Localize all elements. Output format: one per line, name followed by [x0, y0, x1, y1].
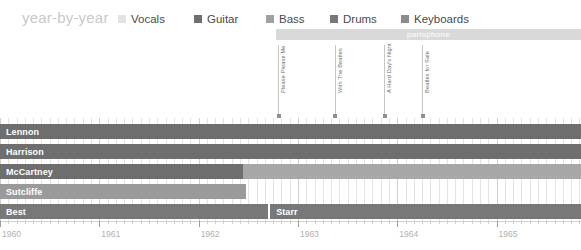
- album-release-marker[interactable]: Beatles for Sale: [422, 45, 423, 117]
- album-release-marker[interactable]: A Hard Day's Night: [384, 45, 385, 117]
- axis-tick-minor: [108, 221, 109, 224]
- axis-tick-minor: [66, 221, 67, 224]
- axis-tick-minor: [555, 221, 556, 224]
- axis-tick-minor: [331, 221, 332, 224]
- chart-header: year-by-year VocalsGuitarBassDrumsKeyboa…: [0, 8, 581, 30]
- axis-tick-minor: [91, 221, 92, 224]
- axis-tick-major: [397, 221, 398, 227]
- timeline-bar-harrison[interactable]: [0, 144, 581, 159]
- timeline-row-label: Harrison: [6, 144, 44, 159]
- legend-swatch-icon: [330, 15, 338, 23]
- legend-item-label: Keyboards: [414, 13, 469, 25]
- axis-tick-minor: [430, 221, 431, 224]
- timeline-row: Sutcliffe: [0, 184, 581, 199]
- timeline-row-label: Best: [6, 204, 26, 219]
- axis-tick-minor: [132, 221, 133, 224]
- axis-tick-minor: [281, 221, 282, 224]
- axis-tick-minor: [58, 221, 59, 224]
- axis-tick-minor: [563, 221, 564, 224]
- page-title: year-by-year: [22, 9, 109, 26]
- axis-tick-minor: [141, 221, 142, 224]
- axis-tick-minor: [232, 221, 233, 224]
- axis-tick-minor: [538, 221, 539, 224]
- timeline-row: Lennon: [0, 124, 581, 139]
- axis-tick-minor: [41, 221, 42, 224]
- axis-tick-minor: [157, 221, 158, 224]
- axis-tick-minor: [463, 221, 464, 224]
- axis-tick-minor: [174, 221, 175, 224]
- axis-tick-minor: [356, 221, 357, 224]
- axis-tick-minor: [472, 221, 473, 224]
- legend-item-label: Drums: [343, 13, 377, 25]
- axis-tick-major: [497, 221, 498, 227]
- legend-swatch-icon: [118, 15, 126, 23]
- timeline-bar-best[interactable]: [0, 204, 268, 219]
- timeline-row: BestStarr: [0, 204, 581, 219]
- axis-tick-label: 1962: [201, 229, 220, 239]
- legend-swatch-icon: [194, 15, 202, 23]
- axis-tick-label: 1963: [300, 229, 319, 239]
- axis-tick-minor: [223, 221, 224, 224]
- timeline-bar-starr[interactable]: [270, 204, 581, 219]
- record-label-band-text: parlophone: [407, 30, 450, 39]
- axis-tick-label: 1965: [499, 229, 518, 239]
- axis-tick-minor: [480, 221, 481, 224]
- axis-tick-minor: [182, 221, 183, 224]
- legend-item-vocals[interactable]: Vocals: [118, 11, 165, 27]
- timeline-plot-area: LennonHarrisonMcCartneySutcliffeBestStar…: [0, 118, 581, 221]
- axis-tick-minor: [579, 221, 580, 224]
- legend-item-keyboards[interactable]: Keyboards: [401, 11, 469, 27]
- axis-tick-minor: [406, 221, 407, 224]
- timeline-row: Harrison: [0, 144, 581, 159]
- axis-tick-minor: [149, 221, 150, 224]
- axis-tick-minor: [381, 221, 382, 224]
- axis-tick-minor: [571, 221, 572, 224]
- axis-tick-minor: [521, 221, 522, 224]
- timeline-row-label: Sutcliffe: [6, 184, 42, 199]
- album-release-marker[interactable]: Please Please Me: [278, 45, 279, 117]
- axis-tick-minor: [505, 221, 506, 224]
- axis-tick-minor: [364, 221, 365, 224]
- axis-tick-minor: [257, 221, 258, 224]
- album-title-label: With The Beatles: [337, 48, 343, 93]
- axis-tick-minor: [306, 221, 307, 224]
- album-title-label: A Hard Day's Night: [386, 43, 392, 93]
- legend-item-guitar[interactable]: Guitar: [194, 11, 238, 27]
- axis-tick-minor: [265, 221, 266, 224]
- legend-item-label: Bass: [279, 13, 305, 25]
- axis-tick-minor: [439, 221, 440, 224]
- axis-tick-minor: [315, 221, 316, 224]
- axis-tick-minor: [290, 221, 291, 224]
- timeline-row-label: Starr: [276, 204, 298, 219]
- axis-tick-minor: [422, 221, 423, 224]
- axis-tick-label: 1961: [101, 229, 120, 239]
- axis-tick-minor: [372, 221, 373, 224]
- release-marker-line: [278, 45, 279, 117]
- axis-tick-minor: [323, 221, 324, 224]
- release-marker-line: [335, 45, 336, 117]
- album-title-label: Please Please Me: [280, 46, 286, 94]
- axis-tick-major: [99, 221, 100, 227]
- axis-tick-minor: [455, 221, 456, 224]
- legend-swatch-icon: [266, 15, 274, 23]
- axis-tick-minor: [124, 221, 125, 224]
- axis-tick-major: [298, 221, 299, 227]
- legend-item-label: Guitar: [207, 13, 238, 25]
- axis-tick-minor: [116, 221, 117, 224]
- axis-tick-minor: [190, 221, 191, 224]
- album-release-marker[interactable]: With The Beatles: [335, 45, 336, 117]
- axis-tick-minor: [240, 221, 241, 224]
- timeline-bar-mccartney[interactable]: [243, 164, 581, 179]
- axis-tick-minor: [8, 221, 9, 224]
- axis-tick-major: [199, 221, 200, 227]
- x-axis: 196019611962196319641965: [0, 221, 581, 250]
- legend-swatch-icon: [401, 15, 409, 23]
- year-by-year-timeline-chart: year-by-year VocalsGuitarBassDrumsKeyboa…: [0, 0, 581, 250]
- axis-tick-minor: [348, 221, 349, 224]
- timeline-bar-lennon[interactable]: [0, 124, 581, 139]
- legend-item-drums[interactable]: Drums: [330, 11, 377, 27]
- axis-tick-minor: [50, 221, 51, 224]
- legend-item-bass[interactable]: Bass: [266, 11, 305, 27]
- axis-tick-minor: [166, 221, 167, 224]
- axis-tick-minor: [215, 221, 216, 224]
